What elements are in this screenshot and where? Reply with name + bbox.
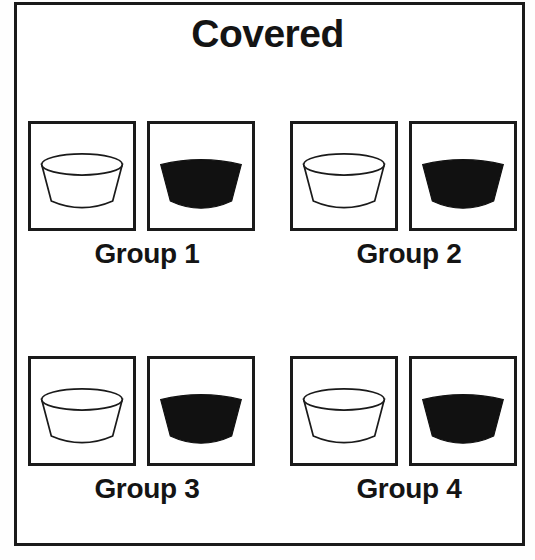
empty-bowl-icon [296,128,392,224]
filled-bowl-icon [153,128,249,224]
group-label-2: Group 2 [290,240,528,268]
filled-bowl-icon [415,128,511,224]
panel-group2-empty-bowl [290,121,398,231]
empty-bowl-icon [296,363,392,459]
group-cell-2: Group 2 [290,121,528,301]
panel-group4-filled-bowl [409,356,517,466]
group-label-1: Group 1 [28,240,266,268]
panel-group3-empty-bowl [28,356,136,466]
panel-pair-1 [28,121,255,231]
group-cell-4: Group 4 [290,356,528,536]
panel-group4-empty-bowl [290,356,398,466]
group-cell-1: Group 1 [28,121,266,301]
figure-title: Covered [0,14,535,53]
panel-group3-filled-bowl [147,356,255,466]
panel-group2-filled-bowl [409,121,517,231]
panel-group1-empty-bowl [28,121,136,231]
panel-pair-3 [28,356,255,466]
group-label-3: Group 3 [28,475,266,503]
group-label-4: Group 4 [290,475,528,503]
panel-pair-2 [290,121,517,231]
empty-bowl-icon [34,363,130,459]
panel-pair-4 [290,356,517,466]
panel-group1-filled-bowl [147,121,255,231]
group-cell-3: Group 3 [28,356,266,536]
filled-bowl-icon [153,363,249,459]
empty-bowl-icon [34,128,130,224]
figure-root: Covered Group 1 [0,0,535,560]
filled-bowl-icon [415,363,511,459]
